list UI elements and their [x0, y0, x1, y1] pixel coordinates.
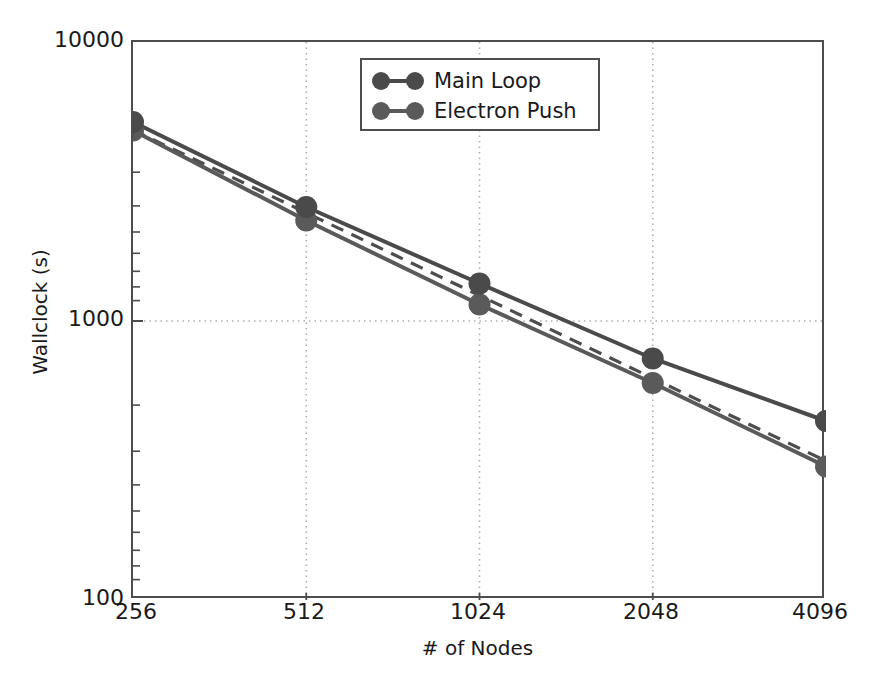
series-line-main-loop	[133, 122, 826, 421]
legend-item-electron-push: Electron Push	[370, 96, 588, 126]
legend-label-electron-push: Electron Push	[426, 101, 577, 122]
y-tick-10000: 10000	[54, 29, 124, 51]
y-axis-label: Wallclock (s)	[28, 212, 52, 412]
y-tick-1000: 1000	[68, 308, 124, 330]
chart-figure: 10000 1000 100 Wallclock (s)	[0, 0, 878, 678]
legend-marker-main-loop	[370, 69, 426, 93]
chart-legend: Main Loop Electron Push	[360, 58, 600, 131]
x-tick-4096: 4096	[792, 601, 848, 623]
legend-marker-electron-push	[370, 99, 426, 123]
plot-area: Main Loop Electron Push	[131, 40, 824, 598]
x-tick-2048: 2048	[623, 601, 679, 623]
x-tick-256: 256	[115, 601, 157, 623]
x-axis-label: # of Nodes	[131, 636, 824, 660]
legend-item-main-loop: Main Loop	[370, 66, 588, 96]
x-tick-1024: 1024	[450, 601, 506, 623]
legend-label-main-loop: Main Loop	[426, 71, 541, 92]
y-axis-tick-labels: 10000 1000 100	[0, 0, 124, 678]
y-axis-minor-ticks	[133, 126, 143, 579]
x-tick-512: 512	[283, 601, 325, 623]
